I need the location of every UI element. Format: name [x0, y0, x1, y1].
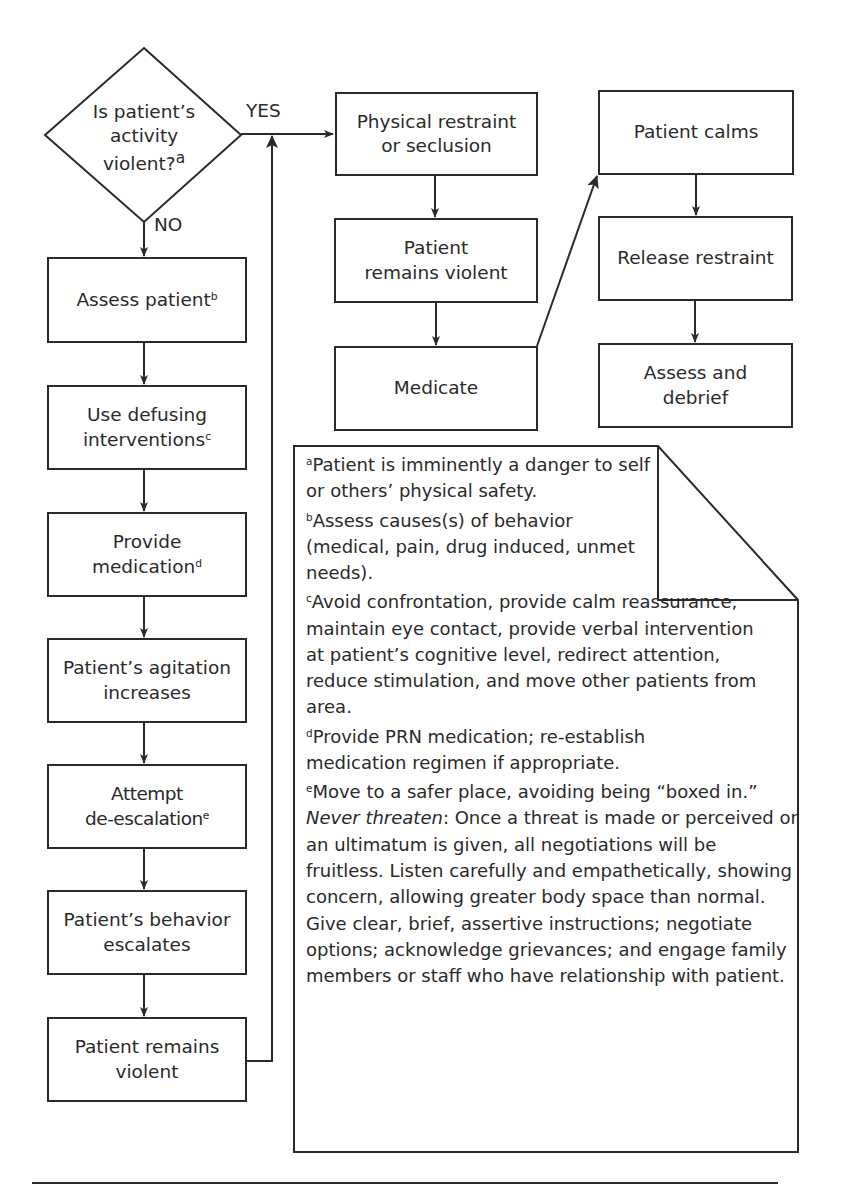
footnote-text: Avoid confrontation, provide calm reassu…: [306, 591, 756, 717]
footnotes-note: aPatient is imminently a danger to self …: [294, 446, 798, 1152]
footnote-e: eMove to a safer place, avoiding being “…: [306, 779, 798, 989]
box-release-restraint: Release restraint: [598, 216, 793, 301]
box-label: increases: [63, 681, 231, 705]
box-behavior-escalates: Patient’s behaviorescalates: [47, 890, 247, 975]
footnote-d: dProvide PRN medication; re-establish me…: [306, 724, 736, 777]
footnote-a: aPatient is imminently a danger to self …: [306, 452, 656, 505]
footnote-text: Move to a safer place, avoiding being “b…: [312, 781, 757, 802]
box-label: Patient calms: [634, 120, 759, 144]
footnote-text: : Once a threat is made or perceived or …: [306, 807, 798, 986]
box-label: or seclusion: [357, 134, 517, 158]
box-label: Provide: [92, 530, 202, 554]
box-label: Patient remains: [75, 1035, 220, 1059]
bottom-rule: [32, 1182, 778, 1184]
footnote-ref: e: [203, 808, 209, 821]
decision-line-2: activity: [110, 125, 178, 146]
box-label: remains violent: [364, 261, 507, 285]
box-assess-patient: Assess patientb: [47, 257, 247, 343]
footnote-text: Patient is imminently a danger to self o…: [306, 454, 650, 501]
footnote-ref: d: [195, 556, 202, 569]
box-use-defusing-interventions: Use defusinginterventionsc: [47, 385, 247, 470]
footnote-b: bAssess causes(s) of behavior (medical, …: [306, 508, 656, 587]
box-patient-calms: Patient calms: [598, 90, 794, 175]
box-label: interventions: [83, 429, 205, 450]
footnote-ref: a: [176, 149, 185, 167]
box-assess-and-debrief: Assess anddebrief: [598, 343, 793, 428]
box-attempt-deescalation: Attemptde-escalatione: [47, 764, 247, 849]
box-patient-remains-violent-mid: Patientremains violent: [334, 218, 538, 303]
box-label: Use defusing: [83, 403, 211, 427]
box-label: Assess and: [644, 361, 747, 385]
footnote-c: cAvoid confrontation, provide calm reass…: [306, 589, 766, 720]
box-label: debrief: [644, 386, 747, 410]
box-label: Patient’s agitation: [63, 656, 231, 680]
box-label: Physical restraint: [357, 110, 517, 134]
no-label: NO: [154, 214, 182, 235]
footnote-text: Assess causes(s) of behavior (medical, p…: [306, 510, 635, 584]
box-label: violent: [75, 1060, 220, 1084]
box-medicate: Medicate: [334, 346, 538, 431]
yes-label: YES: [246, 100, 281, 121]
box-label: de-escalation: [85, 808, 203, 829]
flowchart-diagram: Is patient’s activity violent?a YES NO A…: [0, 0, 843, 1204]
footnote-marker: b: [306, 510, 313, 522]
box-label: medication: [92, 556, 195, 577]
box-patient-remains-violent-left: Patient remainsviolent: [47, 1017, 247, 1102]
decision-line-3: violent?: [103, 153, 176, 174]
box-label: Patient’s behavior: [63, 908, 230, 932]
footnote-marker: d: [306, 726, 313, 738]
box-agitation-increases: Patient’s agitationincreases: [47, 638, 247, 723]
box-provide-medication: Providemedicationd: [47, 512, 247, 597]
box-label: Release restraint: [617, 246, 774, 270]
box-label: Medicate: [394, 376, 478, 400]
box-label: Assess patient: [76, 289, 210, 310]
box-label: escalates: [63, 933, 230, 957]
footnote-ref: c: [205, 429, 211, 442]
footnote-text: Provide PRN medication; re-establish med…: [306, 726, 645, 773]
footnote-ref: b: [211, 289, 218, 302]
footnote-emphasis: Never threaten: [306, 807, 443, 828]
box-label: Patient: [364, 236, 507, 260]
box-physical-restraint: Physical restraintor seclusion: [335, 92, 538, 176]
box-label: Attempt: [85, 782, 209, 806]
decision-question: Is patient’s activity violent?a: [64, 100, 224, 176]
decision-line-1: Is patient’s: [93, 101, 195, 122]
